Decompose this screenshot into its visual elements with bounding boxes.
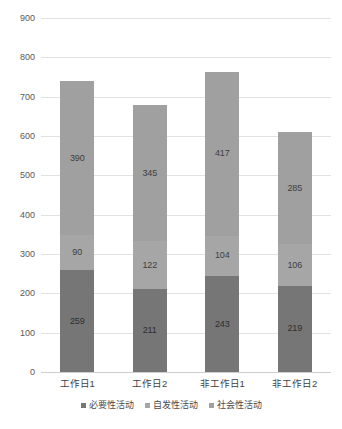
bar-segment[interactable]: 104 — [205, 236, 239, 277]
bar-stack: 285106219 — [278, 132, 312, 372]
bar-segment-value-label: 417 — [215, 149, 230, 158]
y-axis-tick-label: 100 — [20, 328, 35, 337]
bar-stack: 417104243 — [205, 72, 239, 373]
bar-segment[interactable]: 285 — [278, 132, 312, 244]
y-axis-tick-label: 500 — [20, 171, 35, 180]
legend-item[interactable]: 必要性活动 — [81, 400, 134, 411]
bar-segment-value-label: 219 — [287, 324, 302, 333]
y-axis-tick-label: 0 — [30, 368, 35, 377]
y-axis-tick-label: 700 — [20, 92, 35, 101]
bar-segment[interactable]: 106 — [278, 244, 312, 286]
legend-swatch-icon — [145, 403, 150, 408]
x-axis-tick-label: 非工作日2 — [259, 377, 332, 391]
bar-segment-value-label: 243 — [215, 320, 230, 329]
bars-layer: 39090259345122211417104243285106219 — [41, 12, 331, 378]
legend-label: 自发性活动 — [153, 400, 198, 411]
x-axis-tick-label: 非工作日1 — [186, 377, 259, 391]
x-axis-line — [41, 372, 331, 373]
bar-group[interactable]: 417104243 — [205, 72, 239, 373]
legend-item[interactable]: 社会性活动 — [209, 400, 262, 411]
stacked-bar-chart: 9008007006005004003002001000 39090259345… — [0, 0, 342, 429]
bar-segment-value-label: 122 — [142, 261, 157, 270]
y-axis-tick-label: 800 — [20, 53, 35, 62]
legend-item[interactable]: 自发性活动 — [145, 400, 198, 411]
bar-segment-value-label: 285 — [287, 184, 302, 193]
x-axis-labels: 工作日1工作日2非工作日1非工作日2 — [41, 377, 331, 395]
y-axis: 9008007006005004003002001000 — [0, 0, 41, 390]
bar-segment-value-label: 90 — [72, 248, 82, 257]
legend-swatch-icon — [81, 403, 86, 408]
bar-group[interactable]: 345122211 — [133, 105, 167, 372]
bar-segment-value-label: 345 — [142, 169, 157, 178]
y-axis-tick-label: 600 — [20, 132, 35, 141]
x-axis-tick-label: 工作日1 — [41, 377, 114, 391]
bar-stack: 345122211 — [133, 105, 167, 372]
bar-segment[interactable]: 417 — [205, 72, 239, 236]
bar-segment[interactable]: 259 — [60, 270, 94, 372]
bar-segment-value-label: 104 — [215, 251, 230, 260]
legend-label: 社会性活动 — [217, 400, 262, 411]
bar-segment-value-label: 106 — [287, 261, 302, 270]
bar-segment[interactable]: 390 — [60, 81, 94, 234]
bar-segment-value-label: 211 — [143, 326, 157, 335]
bar-segment-value-label: 259 — [70, 317, 85, 326]
bar-group[interactable]: 39090259 — [60, 81, 94, 372]
bar-segment[interactable]: 90 — [60, 235, 94, 270]
bar-segment[interactable]: 243 — [205, 276, 239, 372]
bar-segment[interactable]: 219 — [278, 286, 312, 372]
bar-segment[interactable]: 345 — [133, 105, 167, 241]
x-axis-tick-label: 工作日2 — [114, 377, 187, 391]
y-axis-tick-label: 900 — [20, 14, 35, 23]
y-axis-tick-label: 200 — [20, 289, 35, 298]
y-axis-tick-label: 300 — [20, 250, 35, 259]
bar-segment[interactable]: 211 — [133, 289, 167, 372]
bar-stack: 39090259 — [60, 81, 94, 372]
chart-legend: 必要性活动自发性活动社会性活动 — [0, 400, 342, 411]
legend-swatch-icon — [209, 403, 214, 408]
legend-label: 必要性活动 — [89, 400, 134, 411]
bar-group[interactable]: 285106219 — [278, 132, 312, 372]
bar-segment-value-label: 390 — [70, 154, 85, 163]
y-axis-tick-label: 400 — [20, 210, 35, 219]
bar-segment[interactable]: 122 — [133, 241, 167, 289]
